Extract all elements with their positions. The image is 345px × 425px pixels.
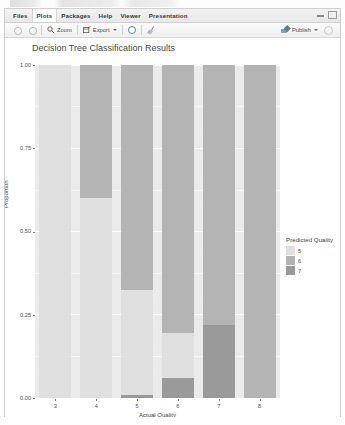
publish-label: Publish	[292, 27, 311, 33]
remove-plot-icon	[128, 26, 136, 34]
tab-files[interactable]: Files	[9, 9, 32, 22]
toolbar-separator-1	[41, 25, 42, 35]
y-axis-title: Proportion	[5, 180, 9, 208]
clear-plots-button[interactable]	[144, 24, 159, 37]
bar-7	[203, 65, 235, 398]
bar-6	[162, 65, 194, 398]
remove-plot-button[interactable]	[125, 24, 139, 37]
scan-top-strip	[0, 0, 345, 8]
x-tick-label: 7	[209, 403, 229, 409]
refresh-button[interactable]	[321, 24, 336, 37]
forward-button[interactable]	[24, 24, 39, 37]
plot-panel	[35, 65, 280, 398]
bar-segment-q6	[121, 65, 153, 290]
bar-segment-q6	[203, 65, 235, 325]
legend-item: 5	[286, 246, 333, 255]
zoom-button[interactable]: Zoom	[44, 24, 75, 37]
y-tick-label: 0.50	[20, 228, 31, 234]
legend: Predicted Quality 567	[286, 236, 333, 276]
broom-icon	[147, 26, 156, 35]
window-controls	[316, 11, 337, 19]
legend-swatch-fill	[286, 256, 295, 265]
toolbar-separator-4	[141, 25, 142, 35]
x-tick-mark	[178, 399, 179, 401]
bar-segment-q5	[39, 65, 71, 398]
scan-smudge	[10, 0, 180, 7]
y-tick-mark	[33, 398, 35, 399]
minimize-icon[interactable]	[316, 11, 325, 19]
y-tick-mark	[33, 148, 35, 149]
x-tick-mark	[96, 399, 97, 401]
publish-icon	[281, 26, 290, 34]
x-tick-mark	[260, 399, 261, 401]
x-tick-mark	[55, 399, 56, 401]
pane-frame: Files Plots Packages Help Viewer Present…	[4, 8, 341, 417]
legend-swatch-fill	[286, 266, 295, 275]
y-tick-label: 1.00	[20, 62, 31, 68]
x-tick-label: 8	[250, 403, 270, 409]
tab-plots[interactable]: Plots	[32, 9, 58, 22]
bar-segment-q6	[244, 65, 276, 398]
x-tick-label: 3	[45, 403, 65, 409]
legend-label: 7	[298, 268, 301, 274]
plot-canvas: Decision Tree Classification Results 0.0…	[5, 38, 340, 417]
pane-tab-bar: Files Plots Packages Help Viewer Present…	[5, 9, 340, 23]
legend-item: 7	[286, 266, 333, 275]
tab-presentation[interactable]: Presentation	[145, 9, 192, 22]
x-tick-mark	[137, 399, 138, 401]
legend-label: 6	[298, 258, 301, 264]
legend-swatch	[286, 246, 295, 255]
y-tick-label: 0.00	[20, 395, 31, 401]
y-tick-label: 0.25	[20, 312, 31, 318]
tab-viewer[interactable]: Viewer	[116, 9, 144, 22]
zoom-label: Zoom	[57, 27, 72, 33]
y-tick-mark	[33, 315, 35, 316]
publish-chevron-down-icon[interactable]	[314, 29, 318, 31]
plots-toolbar: Zoom Export	[5, 23, 340, 38]
export-button[interactable]: Export	[80, 24, 120, 37]
publish-button[interactable]: Publish	[278, 24, 321, 37]
back-arrow-icon	[12, 26, 21, 35]
x-tick-label: 6	[168, 403, 188, 409]
x-tick-mark	[219, 399, 220, 401]
export-label: Export	[93, 27, 110, 33]
legend-swatch-fill	[286, 246, 295, 255]
legend-title: Predicted Quality	[286, 236, 333, 243]
refresh-icon	[324, 26, 333, 35]
bar-5	[121, 65, 153, 398]
plot-title: Decision Tree Classification Results	[32, 43, 175, 53]
bar-3	[39, 65, 71, 398]
chevron-down-icon[interactable]	[113, 29, 117, 31]
legend-entries: 567	[286, 246, 333, 275]
tab-packages[interactable]: Packages	[57, 9, 94, 22]
bar-segment-q7	[121, 395, 153, 398]
rstudio-plots-pane: Files Plots Packages Help Viewer Present…	[0, 0, 345, 425]
bar-4	[80, 65, 112, 398]
bar-8	[244, 65, 276, 398]
x-axis-title: Actual Quality	[35, 412, 280, 417]
bar-segment-q5	[80, 198, 112, 398]
y-tick-mark	[33, 232, 35, 233]
bar-segment-q5	[162, 333, 194, 378]
export-icon	[83, 26, 91, 34]
toolbar-separator-2	[77, 25, 78, 35]
maximize-icon[interactable]	[328, 11, 337, 19]
forward-arrow-icon	[27, 26, 36, 35]
legend-swatch	[286, 256, 295, 265]
x-tick-label: 5	[127, 403, 147, 409]
bar-segment-q7	[203, 325, 235, 398]
back-button[interactable]	[9, 24, 24, 37]
x-tick-label: 4	[86, 403, 106, 409]
tab-help[interactable]: Help	[95, 9, 117, 22]
legend-label: 5	[298, 248, 301, 254]
bar-segment-q6	[162, 65, 194, 333]
toolbar-separator-3	[122, 25, 123, 35]
bar-segment-q6	[80, 65, 112, 198]
y-tick-mark	[33, 65, 35, 66]
y-tick-label: 0.75	[20, 145, 31, 151]
magnifier-icon	[47, 26, 55, 34]
legend-item: 6	[286, 256, 333, 265]
bar-segment-q7	[162, 378, 194, 398]
bar-segment-q5	[121, 290, 153, 395]
legend-swatch	[286, 266, 295, 275]
